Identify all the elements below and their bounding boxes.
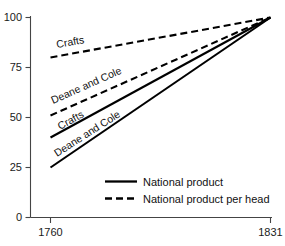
y-tick-label-0: 0 [16,211,22,223]
y-tick-label-100: 100 [4,11,22,23]
y-tick-label-25: 25 [10,161,22,173]
series-label-deane-cole-national-product: Deane and Cole [52,108,123,159]
chart-canvas: 0 25 50 75 100 1760 1831 Crafts Deane an… [0,0,285,246]
y-tick-label-50: 50 [10,111,22,123]
x-tick-label-1760: 1760 [38,226,62,238]
chart-legend: National product National product per he… [105,176,270,205]
x-tick-label-1831: 1831 [258,226,282,238]
legend-label-national-product-per-head: National product per head [143,193,270,205]
y-tick-label-75: 75 [10,61,22,73]
series-line-deane-cole-per-head [51,18,271,116]
line-chart: 0 25 50 75 100 1760 1831 Crafts Deane an… [0,0,285,246]
legend-label-national-product: National product [143,176,223,188]
series-label-crafts-national-product: Crafts [55,108,85,132]
series-line-crafts-national-product [51,18,271,138]
series-label-crafts-per-head: Crafts [55,33,85,50]
